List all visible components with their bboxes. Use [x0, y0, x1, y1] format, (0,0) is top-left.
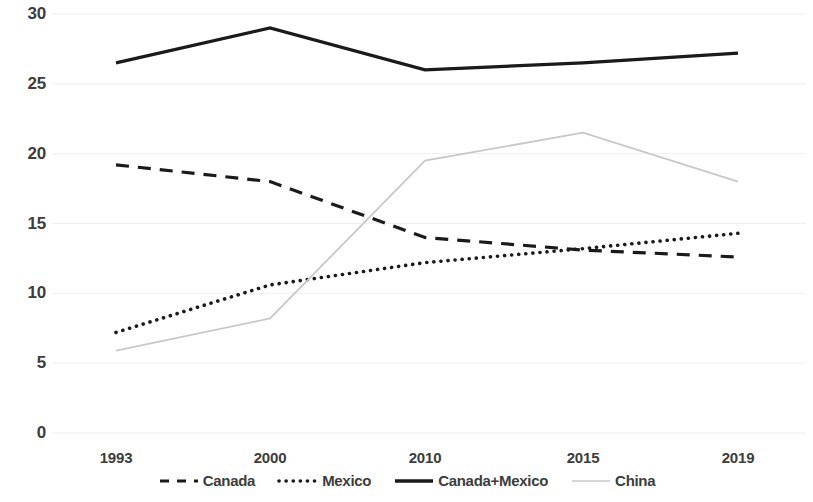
legend-label: Canada+Mexico	[438, 472, 548, 489]
series-line-mexico	[116, 233, 738, 332]
dashed-line-swatch	[158, 474, 200, 488]
series-lines	[116, 28, 738, 351]
legend-item-mexico[interactable]: Mexico	[277, 472, 371, 489]
solid-line-swatch	[393, 474, 435, 488]
line-chart: 302520151050 19932000201020152019 Canada…	[0, 0, 813, 502]
legend-item-canada-plus-mexico[interactable]: Canada+Mexico	[393, 472, 548, 489]
light-line-swatch	[570, 474, 612, 488]
legend-label: China	[615, 472, 655, 489]
legend-label: Canada	[203, 472, 255, 489]
series-line-canada-plus-mexico	[116, 28, 738, 70]
legend-item-canada[interactable]: Canada	[158, 472, 255, 489]
legend-label: Mexico	[322, 472, 371, 489]
chart-legend: CanadaMexicoCanada+MexicoChina	[0, 472, 813, 489]
gridlines	[52, 14, 806, 433]
plot-area	[0, 0, 813, 502]
legend-item-china[interactable]: China	[570, 472, 655, 489]
dotted-line-swatch	[277, 474, 319, 488]
